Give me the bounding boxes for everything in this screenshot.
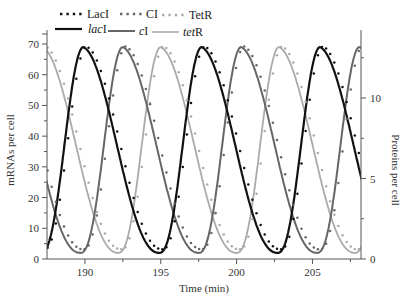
y2-tick-label: 5	[370, 173, 376, 185]
x-tick-label: 190	[77, 266, 94, 278]
y-right-axis-title: Proteins per cell	[390, 134, 402, 205]
x-ticks: 190195200205	[77, 259, 351, 278]
y-tick-label: 70	[28, 38, 40, 50]
y-tick-label: 20	[28, 192, 40, 204]
axes: 190195200205 010203040506070 0510	[28, 30, 382, 278]
series-line-lacI	[39, 47, 367, 253]
legend: LacI CI TetR lacI cI tetR	[55, 7, 212, 39]
x-axis-title: Time (min)	[179, 282, 229, 295]
legend-item-ci-mrna: cI	[108, 24, 148, 38]
y-left-ticks: 010203040506070	[28, 34, 47, 265]
legend-label: LacI	[87, 7, 109, 21]
y-tick-label: 0	[34, 253, 40, 265]
legend-item-laci-mrna: lacI	[55, 22, 107, 36]
y-right-ticks: 0510	[361, 58, 382, 265]
legend-label: tetR	[183, 25, 203, 39]
x-tick-label: 195	[153, 266, 170, 278]
legend-label: cI	[139, 24, 148, 38]
legend-item-laci-protein: LacI	[60, 7, 109, 21]
x-tick-label: 205	[304, 266, 321, 278]
legend-item-ci-protein: CI	[120, 7, 158, 21]
y-tick-label: 10	[28, 222, 40, 234]
x-tick-label: 200	[228, 266, 245, 278]
y2-tick-label: 10	[370, 92, 382, 104]
y-left-axis-title: mRNAs per cell	[4, 114, 16, 185]
y-tick-label: 60	[28, 69, 40, 81]
plot-curves	[38, 45, 368, 253]
legend-label: CI	[146, 7, 158, 21]
y-tick-label: 40	[28, 130, 40, 142]
legend-label: lacI	[88, 22, 107, 36]
y-tick-label: 50	[28, 99, 40, 111]
oscillation-chart: 190195200205 010203040506070 0510 Time (…	[0, 0, 409, 303]
y2-tick-label: 0	[370, 253, 376, 265]
series-line-tetR	[39, 47, 367, 253]
y-tick-label: 30	[28, 161, 40, 173]
series-line-cI	[39, 47, 367, 253]
legend-item-tetr-mrna: tetR	[152, 25, 203, 39]
series-dots-LacI	[38, 46, 368, 251]
legend-item-tetr-protein: TetR	[162, 8, 212, 22]
series-dots-CI	[38, 45, 368, 250]
legend-label: TetR	[189, 8, 212, 22]
series-dots-TetR	[38, 46, 368, 251]
